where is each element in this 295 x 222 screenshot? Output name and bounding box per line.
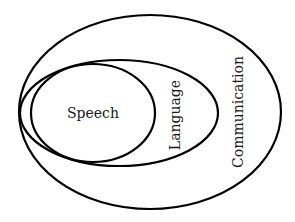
language-label: Language — [167, 80, 183, 150]
communication-label: Communication — [230, 56, 246, 168]
speech-label: Speech — [67, 105, 119, 121]
nested-venn-diagram: Communication Language Speech — [0, 0, 295, 222]
language-ellipse — [20, 60, 218, 166]
